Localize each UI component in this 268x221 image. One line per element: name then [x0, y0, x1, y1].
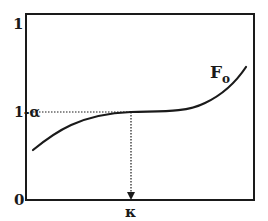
y-top-label: 1	[13, 15, 23, 33]
diagram-canvas: 1 0 1-α κ Fo	[0, 0, 268, 221]
kappa-label: κ	[125, 203, 136, 221]
alpha-level-label: 1-α	[14, 104, 41, 120]
arrow-down-icon	[127, 192, 135, 200]
plot-frame	[26, 14, 254, 200]
curve-label: Fo	[210, 62, 230, 86]
curve-label-subscript: o	[222, 72, 230, 86]
y-bottom-label: 0	[14, 191, 24, 209]
curve-label-main: F	[210, 62, 222, 82]
